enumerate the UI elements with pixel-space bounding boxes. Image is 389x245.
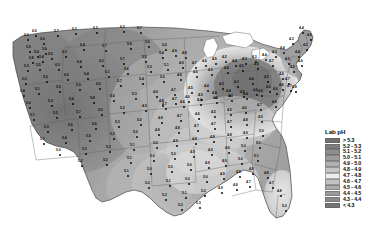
station-value: 4.4 bbox=[204, 85, 209, 89]
station-dot bbox=[267, 177, 269, 179]
station-value: 4.9 bbox=[205, 162, 210, 166]
station-dot bbox=[148, 46, 150, 48]
station-dot bbox=[46, 81, 48, 83]
station-value: 5.1 bbox=[30, 114, 35, 118]
station-dot bbox=[171, 171, 173, 173]
station-dot bbox=[102, 65, 104, 67]
station-value: 4.7 bbox=[211, 123, 216, 127]
station-dot bbox=[195, 67, 197, 69]
station-dot bbox=[275, 56, 277, 58]
station-value: 5.1 bbox=[35, 88, 40, 92]
station-dot bbox=[183, 106, 185, 108]
station-value: 5.8 bbox=[90, 97, 95, 101]
station-value: 5.1 bbox=[124, 170, 129, 174]
station-value: 4.6 bbox=[273, 88, 278, 92]
station-dot bbox=[175, 55, 177, 57]
station-dot bbox=[246, 98, 248, 100]
map-surface bbox=[0, 0, 320, 245]
station-dot bbox=[39, 69, 41, 71]
station-value: 4.7 bbox=[287, 85, 292, 89]
station-value: 5.1 bbox=[182, 192, 187, 196]
station-value: 4.8 bbox=[272, 101, 277, 105]
station-value: 5.7 bbox=[117, 80, 122, 84]
station-value: 4.3 bbox=[234, 81, 239, 85]
station-dot bbox=[196, 76, 198, 78]
station-dot bbox=[267, 81, 269, 83]
station-dot bbox=[67, 79, 69, 81]
station-dot bbox=[27, 39, 29, 41]
station-dot bbox=[257, 160, 259, 162]
station-dot bbox=[245, 63, 247, 65]
station-dot bbox=[59, 91, 61, 93]
station-dot bbox=[236, 189, 238, 191]
station-dot bbox=[292, 43, 294, 45]
station-dot bbox=[190, 169, 192, 171]
station-value: 4.9 bbox=[155, 129, 160, 133]
station-dot bbox=[246, 124, 248, 126]
station-value: 4.5 bbox=[266, 86, 271, 90]
station-dot bbox=[47, 131, 49, 133]
station-value: 4.9 bbox=[173, 140, 178, 144]
station-value: 5.4 bbox=[139, 78, 144, 82]
station-value: 5.5 bbox=[53, 112, 58, 116]
station-dot bbox=[93, 102, 95, 104]
station-dot bbox=[167, 69, 169, 71]
station-dot bbox=[282, 78, 284, 80]
station-dot bbox=[65, 56, 67, 58]
station-value: 5.1 bbox=[130, 144, 135, 148]
station-value: 4.5 bbox=[258, 90, 263, 94]
station-value: 5.5 bbox=[56, 86, 61, 90]
station-dot bbox=[214, 116, 216, 118]
station-value: 4.3 bbox=[252, 56, 257, 60]
station-dot bbox=[58, 69, 60, 71]
station-value: 5.9 bbox=[76, 84, 81, 88]
station-value: 5.3 bbox=[44, 126, 49, 130]
station-value: 4.6 bbox=[195, 113, 200, 117]
station-value: 4.9 bbox=[179, 62, 184, 66]
station-value: 5.7 bbox=[76, 111, 81, 115]
station-value: 5.8 bbox=[127, 43, 132, 47]
station-value: 5.6 bbox=[145, 41, 150, 45]
station-value: 5.2 bbox=[103, 159, 108, 163]
station-dot bbox=[239, 176, 241, 178]
station-dot bbox=[25, 83, 27, 85]
map-svg bbox=[0, 0, 320, 245]
station-value: 6.3 bbox=[62, 51, 67, 55]
station-dot bbox=[275, 106, 277, 108]
station-dot bbox=[59, 154, 61, 156]
station-value: 4.8 bbox=[233, 184, 238, 188]
station-dot bbox=[51, 58, 53, 60]
station-dot bbox=[282, 89, 284, 91]
legend-swatch bbox=[325, 203, 340, 208]
station-value: 5.1 bbox=[256, 142, 261, 146]
station-value: 4.5 bbox=[188, 87, 193, 91]
station-value: 5.3 bbox=[115, 121, 120, 125]
station-value: 5.5 bbox=[98, 109, 103, 113]
station-dot bbox=[261, 121, 263, 123]
station-value: 5.6 bbox=[124, 68, 129, 72]
station-value: 4.9 bbox=[153, 91, 158, 95]
station-value: 4.7 bbox=[285, 78, 290, 82]
station-value: 4.5 bbox=[240, 91, 245, 95]
station-dot bbox=[191, 92, 193, 94]
station-value: 5.0 bbox=[171, 153, 176, 157]
station-value: 4.5 bbox=[211, 111, 216, 115]
station-dot bbox=[162, 57, 164, 59]
station-dot bbox=[150, 71, 152, 73]
station-value: 4.5 bbox=[290, 66, 295, 70]
station-value: 4.8 bbox=[277, 190, 282, 194]
station-value: 4.7 bbox=[172, 98, 177, 102]
station-dot bbox=[123, 31, 125, 33]
station-dot bbox=[95, 128, 97, 130]
station-value: 5.7 bbox=[120, 58, 125, 62]
station-dot bbox=[32, 62, 34, 64]
legend-swatch bbox=[325, 161, 340, 166]
station-value: 4.7 bbox=[227, 121, 232, 125]
station-dot bbox=[249, 186, 251, 188]
legend-label: < 4.3 bbox=[343, 203, 354, 208]
station-dot bbox=[33, 119, 35, 121]
station-value: 6.1 bbox=[105, 71, 110, 75]
station-dot bbox=[222, 88, 224, 90]
station-dot bbox=[272, 65, 274, 67]
station-value: 4.3 bbox=[242, 58, 247, 62]
